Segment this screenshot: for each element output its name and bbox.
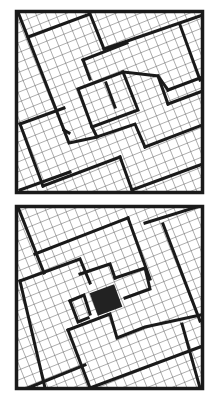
dissection-diagram	[0, 0, 216, 395]
bottom-square	[15, 205, 203, 390]
top-square	[15, 10, 203, 194]
